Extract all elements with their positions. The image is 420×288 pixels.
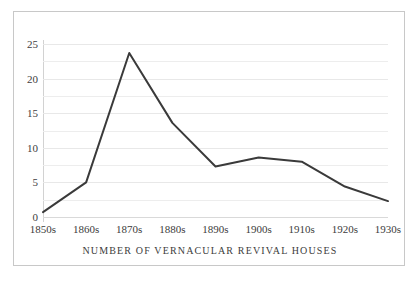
y-tick-label: 15 — [27, 108, 38, 119]
x-tick-label: 1900s — [245, 224, 271, 235]
x-tick-label: 1870s — [116, 224, 142, 235]
series-polyline — [43, 53, 388, 212]
y-tick-label: 10 — [27, 142, 38, 153]
x-tick-label: 1850s — [30, 224, 56, 235]
x-tick-label: 1890s — [202, 224, 228, 235]
x-tick-label: 1930s — [375, 224, 401, 235]
x-tick-label: 1880s — [159, 224, 185, 235]
y-tick-label: 25 — [27, 39, 38, 50]
chart-figure: 0510152025 1850s1860s1870s1880s1890s1900… — [13, 11, 405, 266]
x-tick-label: 1920s — [332, 224, 358, 235]
y-axis-tick-labels: 0510152025 — [14, 44, 38, 217]
plot-area — [43, 44, 388, 217]
y-tick-label: 0 — [33, 212, 39, 223]
x-tick-label: 1860s — [73, 224, 99, 235]
grid-line-baseline — [43, 217, 388, 218]
y-tick-label: 20 — [27, 73, 38, 84]
y-tick-label: 5 — [33, 177, 39, 188]
line-series — [43, 44, 388, 217]
x-axis-title: NUMBER OF VERNACULAR REVIVAL HOUSES — [14, 245, 406, 256]
x-tick-label: 1910s — [289, 224, 315, 235]
x-axis-tick-labels: 1850s1860s1870s1880s1890s1900s1910s1920s… — [43, 224, 388, 240]
